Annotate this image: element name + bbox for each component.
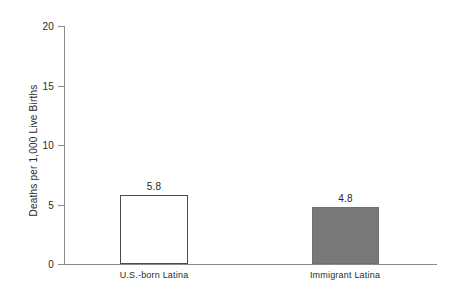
y-axis-line [64,26,65,264]
y-tick-label-10: 10 [42,140,54,151]
y-tick-label-5: 5 [48,199,54,210]
x-axis-line [64,264,437,265]
y-axis-title: Deaths per 1,000 Live Births [28,56,39,246]
x-category-label-immigrant-latina: Immigrant Latina [295,270,395,280]
bar-us-born-latina [120,195,188,264]
y-tick-label-15: 15 [42,80,54,91]
bar-value-us-born-latina: 5.8 [120,181,188,192]
bar-chart: Deaths per 1,000 Live Births 20 15 10 5 … [0,0,452,300]
y-tick-label-20: 20 [42,21,54,32]
bar-immigrant-latina [312,207,379,264]
y-tick-label-0: 0 [48,259,54,270]
x-category-label-us-born-latina: U.S.-born Latina [104,270,204,280]
bar-value-immigrant-latina: 4.8 [312,193,379,204]
